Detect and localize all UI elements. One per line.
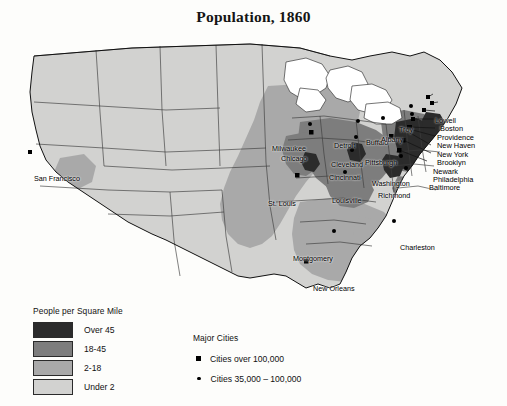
city-label-brooklyn: Brooklyn: [437, 158, 466, 167]
city-label-louisville: Louisville: [332, 196, 362, 205]
legend-population-density: People per Square Mile Over 45 18-45 2-1…: [33, 306, 123, 397]
legend-major-cities: Major Cities Cities over 100,000 Cities …: [193, 333, 301, 391]
legend-label-over-45: Over 45: [84, 325, 115, 335]
legend-label-under-2: Under 2: [84, 382, 115, 392]
swatch-under-2: [33, 379, 73, 395]
city-label-troy: Troy: [399, 125, 413, 134]
swatch-2-18: [33, 360, 73, 376]
city-label-cleveland: Cleveland: [331, 160, 363, 169]
city-label-detroit: Detroit: [334, 141, 355, 150]
legend-label-cities-35000-100000: Cities 35,000 – 100,000: [211, 374, 302, 384]
legend-label-cities-over-100000: Cities over 100,000: [210, 354, 284, 364]
legend-row-2-18[interactable]: 2-18: [33, 359, 123, 376]
legend-row-over-45[interactable]: Over 45: [33, 321, 123, 338]
swatch-over-45: [33, 322, 73, 338]
city-label-albany: Albany: [381, 135, 403, 144]
city-label-pittsburgh: Pittsburgh: [365, 158, 397, 167]
legend-row-under-2[interactable]: Under 2: [33, 378, 123, 395]
legend-row-cities-over-100000[interactable]: Cities over 100,000: [193, 351, 301, 366]
city-label-chicago: Chicago: [281, 154, 307, 163]
city-label-boston: Boston: [440, 124, 463, 133]
city-label-washington: Washington: [372, 179, 410, 188]
city-label-richmond: Richmond: [378, 191, 410, 200]
city-label-new-haven: New Haven: [437, 141, 475, 150]
legend-label-2-18: 2-18: [84, 363, 101, 373]
map-canvas[interactable]: San Francisco Milwaukee Chicago Detroit …: [0, 26, 507, 296]
legend-density-heading: People per Square Mile: [33, 306, 123, 316]
page-title: Population, 1860: [0, 8, 507, 26]
city-label-charleston: Charleston: [400, 243, 435, 252]
city-label-cincinnati: Cincinnati: [329, 173, 361, 182]
city-label-montgomery: Montgomery: [293, 254, 333, 263]
legend-row-18-45[interactable]: 18-45: [33, 340, 123, 357]
city-label-san-francisco: San Francisco: [34, 174, 80, 183]
city-label-baltimore: Baltimore: [429, 183, 460, 192]
map-svg: [0, 26, 507, 296]
city-label-st-louis: St. Louis: [268, 199, 296, 208]
square-marker-icon: [196, 356, 201, 361]
city-label-new-orleans: New Orleans: [313, 284, 355, 293]
dot-marker-icon: [197, 377, 201, 381]
legend-label-18-45: 18-45: [84, 344, 106, 354]
swatch-18-45: [33, 341, 73, 357]
map-page: Population, 1860: [0, 0, 507, 406]
city-label-milwaukee: Milwaukee: [272, 144, 306, 153]
legend-row-cities-35000-100000[interactable]: Cities 35,000 – 100,000: [193, 371, 301, 386]
land-base: [0, 26, 507, 296]
legend-cities-heading: Major Cities: [193, 333, 301, 343]
